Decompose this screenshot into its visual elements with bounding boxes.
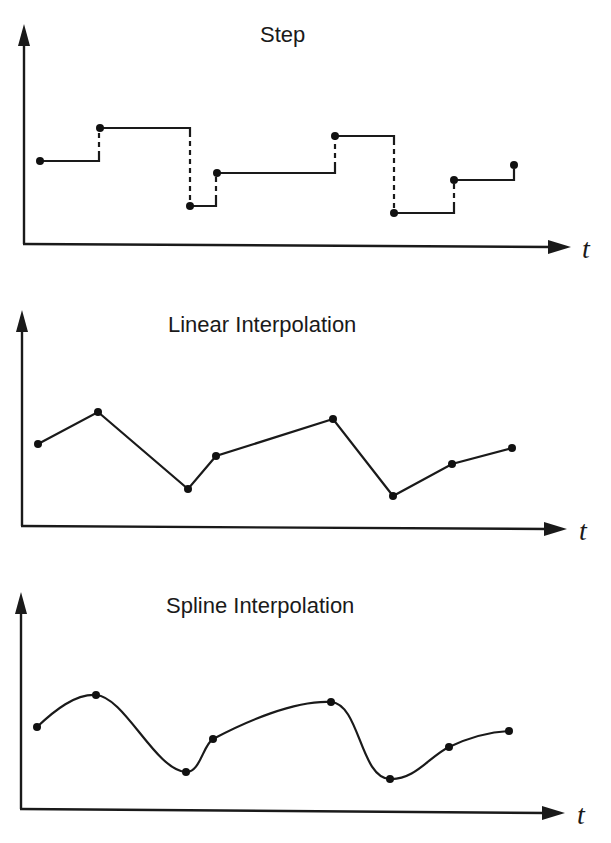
data-point — [386, 775, 394, 783]
spline-x-axis-label: t — [577, 799, 586, 830]
data-point — [212, 452, 220, 460]
data-point — [505, 727, 513, 735]
step-series — [40, 128, 514, 213]
data-point — [327, 698, 335, 706]
spline-points — [33, 691, 513, 783]
spline-title: Spline Interpolation — [166, 593, 354, 618]
data-point — [182, 768, 190, 776]
step-x-axis — [23, 244, 552, 247]
data-point — [445, 743, 453, 751]
step-x-axis-arrow-icon — [548, 240, 571, 254]
linear-points — [34, 408, 516, 500]
step-x-axis-label: t — [582, 233, 591, 264]
data-point — [34, 440, 42, 448]
data-point — [448, 460, 456, 468]
step-panel: Step t — [18, 22, 591, 264]
data-point — [186, 202, 194, 210]
linear-title: Linear Interpolation — [168, 312, 356, 337]
data-point — [389, 492, 397, 500]
linear-x-axis — [21, 526, 548, 529]
spline-x-axis — [20, 809, 546, 813]
step-title: Step — [260, 22, 305, 47]
linear-x-axis-label: t — [579, 515, 588, 546]
data-point — [209, 735, 217, 743]
step-points — [36, 124, 518, 217]
linear-y-axis-arrow-icon — [16, 310, 28, 332]
data-point — [213, 169, 221, 177]
linear-panel: Linear Interpolation t — [16, 310, 588, 546]
data-point — [390, 209, 398, 217]
data-point — [94, 408, 102, 416]
spline-x-axis-arrow-icon — [542, 806, 565, 820]
linear-series — [38, 412, 512, 496]
linear-x-axis-arrow-icon — [544, 522, 567, 536]
data-point — [331, 132, 339, 140]
interpolation-figure: Step t — [0, 0, 611, 843]
spline-y-axis-arrow-icon — [15, 592, 27, 614]
data-point — [36, 157, 44, 165]
data-point — [510, 161, 518, 169]
step-y-axis-arrow-icon — [18, 24, 30, 46]
data-point — [92, 691, 100, 699]
data-point — [33, 723, 41, 731]
data-point — [184, 485, 192, 493]
data-point — [450, 176, 458, 184]
spline-panel: Spline Interpolation t — [15, 592, 586, 830]
spline-series — [37, 695, 509, 779]
data-point — [329, 415, 337, 423]
data-point — [96, 124, 104, 132]
data-point — [508, 444, 516, 452]
